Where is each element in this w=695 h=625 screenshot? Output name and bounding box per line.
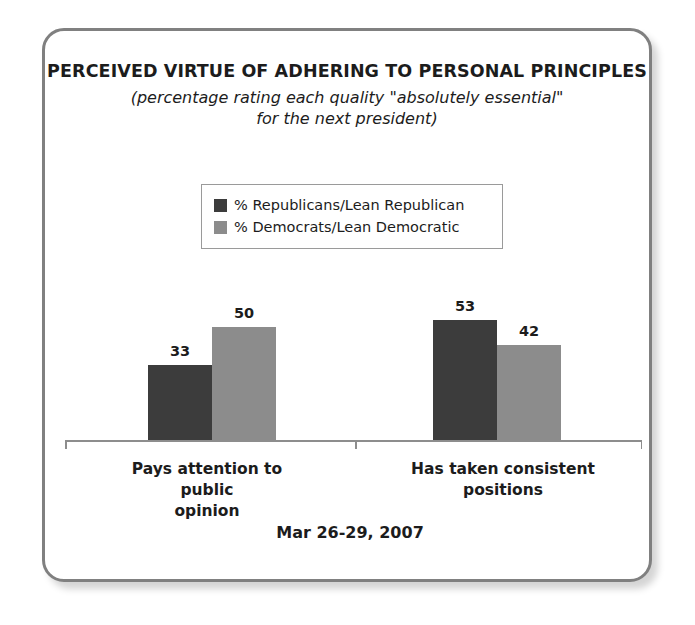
category-label-1-line-2: positions bbox=[403, 480, 603, 501]
legend-item-republicans: % Republicans/Lean Republican bbox=[214, 194, 490, 216]
axis-tick-left bbox=[65, 440, 67, 449]
chart-subtitle: (percentage rating each quality "absolut… bbox=[45, 87, 649, 129]
axis-tick-middle bbox=[355, 440, 357, 449]
bar-value-democrats-group-1: 42 bbox=[497, 323, 561, 339]
bar-republicans-group-0 bbox=[148, 365, 212, 440]
bar-democrats-group-1 bbox=[497, 345, 561, 440]
chart-card: PERCEIVED VIRTUE OF ADHERING TO PERSONAL… bbox=[42, 28, 652, 582]
category-label-1: Has taken consistent positions bbox=[403, 459, 603, 501]
chart-subtitle-line-2: for the next president) bbox=[45, 108, 649, 129]
x-axis-line bbox=[65, 440, 642, 442]
axis-tick-right bbox=[641, 440, 643, 449]
category-label-0-line-2: opinion bbox=[107, 501, 307, 522]
bar-value-republicans-group-1: 53 bbox=[433, 298, 497, 314]
legend-swatch-republicans bbox=[214, 199, 227, 212]
legend-label-democrats: % Democrats/Lean Democratic bbox=[234, 220, 459, 235]
bar-republicans-group-1 bbox=[433, 320, 497, 440]
page-title: PERCEIVED VIRTUE OF ADHERING TO PERSONAL… bbox=[45, 61, 649, 83]
bar-value-democrats-group-0: 50 bbox=[212, 305, 276, 321]
legend-label-republicans: % Republicans/Lean Republican bbox=[234, 198, 464, 213]
survey-date-label: Mar 26-29, 2007 bbox=[45, 523, 655, 542]
screenshot-root: PERCEIVED VIRTUE OF ADHERING TO PERSONAL… bbox=[0, 0, 695, 625]
category-label-0: Pays attention to public opinion bbox=[107, 459, 307, 522]
chart-subtitle-line-1: (percentage rating each quality "absolut… bbox=[45, 87, 649, 108]
category-label-1-line-1: Has taken consistent bbox=[403, 459, 603, 480]
bar-democrats-group-0 bbox=[212, 327, 276, 440]
legend-item-democrats: % Democrats/Lean Democratic bbox=[214, 216, 490, 238]
category-label-0-line-1: Pays attention to public bbox=[107, 459, 307, 501]
title-block: PERCEIVED VIRTUE OF ADHERING TO PERSONAL… bbox=[45, 61, 649, 129]
chart-legend: % Republicans/Lean Republican % Democrat… bbox=[201, 184, 503, 249]
legend-swatch-democrats bbox=[214, 221, 227, 234]
bar-value-republicans-group-0: 33 bbox=[148, 343, 212, 359]
